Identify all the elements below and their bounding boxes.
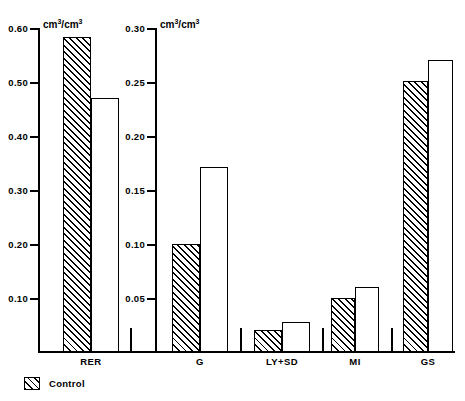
panel-rer-ytick-label-0.10: 0.10 bbox=[0, 294, 28, 304]
group-divider-2 bbox=[322, 328, 324, 353]
bar-mi-control bbox=[331, 298, 355, 353]
legend-swatch-control bbox=[24, 377, 40, 390]
panel-organelles-tick-0.15 bbox=[147, 190, 156, 192]
panel-rer-ytick-label-0.50: 0.50 bbox=[0, 78, 28, 88]
panel-organelles-tick-0.25 bbox=[147, 82, 156, 84]
panel-organelles-ytick-label-0.30: 0.30 bbox=[117, 24, 145, 34]
panel-organelles-ytick-label-0.15: 0.15 bbox=[117, 186, 145, 196]
panel-organelles-tick-0.10 bbox=[147, 244, 156, 246]
bar-lysd-other bbox=[282, 322, 310, 353]
bar-rer-other bbox=[91, 98, 119, 353]
panel-organelles-ytick-label-0.20: 0.20 bbox=[117, 132, 145, 142]
legend: Control bbox=[24, 377, 85, 390]
bar-chart-figure: cm3/cm3 0.60 0.50 0.40 0.30 0.20 0.10 RE… bbox=[0, 0, 465, 401]
panel-organelles-tick-0.30 bbox=[147, 28, 156, 30]
panel-divider bbox=[130, 328, 132, 353]
bar-g-other bbox=[200, 167, 228, 353]
panel-rer-tick-0.50 bbox=[30, 82, 39, 84]
panel-rer-ytick-label-0.30: 0.30 bbox=[0, 186, 28, 196]
category-label-gs: GS bbox=[390, 357, 465, 367]
panel-rer-unit-label: cm3/cm3 bbox=[43, 20, 83, 30]
group-divider-1 bbox=[240, 328, 242, 353]
panel-rer-tick-0.60 bbox=[30, 28, 39, 30]
panel-rer-ytick-label-0.40: 0.40 bbox=[0, 132, 28, 142]
bar-lysd-control bbox=[254, 330, 282, 353]
panel-organelles-tick-0.05 bbox=[147, 298, 156, 300]
panel-rer-tick-0.30 bbox=[30, 190, 39, 192]
panel-organelles-ytick-label-0.25: 0.25 bbox=[117, 78, 145, 88]
panel-rer-ytick-label-0.20: 0.20 bbox=[0, 240, 28, 250]
category-label-rer: RER bbox=[53, 357, 129, 367]
legend-label-control: Control bbox=[49, 379, 85, 389]
bar-gs-control bbox=[403, 81, 428, 353]
category-label-g: G bbox=[162, 357, 238, 367]
panel-rer-ytick-label-0.60: 0.60 bbox=[0, 24, 28, 34]
panel-organelles-ytick-label-0.05: 0.05 bbox=[117, 294, 145, 304]
panel-rer-tick-0.20 bbox=[30, 244, 39, 246]
panel-rer-tick-0.40 bbox=[30, 136, 39, 138]
group-divider-3 bbox=[391, 328, 393, 353]
panel-organelles-unit-label: cm3/cm3 bbox=[160, 20, 200, 30]
x-axis-baseline bbox=[38, 351, 455, 353]
panel-organelles-tick-0.20 bbox=[147, 136, 156, 138]
category-label-mi: MI bbox=[317, 357, 393, 367]
bar-rer-control bbox=[63, 37, 91, 353]
category-label-lysd: LY+SD bbox=[244, 357, 320, 367]
panel-organelles-ytick-label-0.10: 0.10 bbox=[117, 240, 145, 250]
bar-g-control bbox=[172, 244, 200, 353]
bar-gs-other bbox=[428, 60, 453, 353]
panel-rer-tick-0.10 bbox=[30, 298, 39, 300]
bar-mi-other bbox=[355, 287, 379, 353]
